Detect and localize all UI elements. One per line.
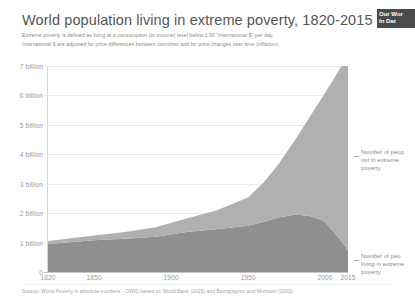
plot-area: 01 billion2 billion3 billion4 billion5 b… bbox=[48, 66, 348, 272]
page-title: World population living in extreme pover… bbox=[22, 12, 362, 28]
subtitle-line-1: Extreme poverty is defined as living at … bbox=[22, 31, 352, 40]
annotation-upper-line-2: not in extreme bbox=[354, 156, 404, 164]
y-axis-tick-label: 6 billion bbox=[20, 92, 43, 99]
source-divider bbox=[22, 284, 393, 285]
subtitle-line-2: International $ are adjusted for price d… bbox=[22, 40, 352, 49]
y-axis-tick-label: 7 billion bbox=[20, 63, 43, 70]
x-axis-tick-label: 2000 bbox=[317, 274, 332, 281]
annotation-leader-line-upper bbox=[354, 156, 359, 157]
y-axis-tick-label: 4 billion bbox=[20, 151, 43, 158]
x-axis-tick-label: 1900 bbox=[164, 274, 179, 281]
y-axis-tick-label: 3 billion bbox=[20, 180, 43, 187]
our-world-in-data-logo[interactable]: Our Wor In Dat bbox=[377, 9, 415, 28]
annotation-upper-line-3: poverty bbox=[354, 164, 404, 172]
x-axis-tick-label: 1850 bbox=[87, 274, 102, 281]
annotation-lower-line-2: living in extreme bbox=[354, 260, 404, 268]
logo-line-1: Our Wor bbox=[379, 11, 415, 18]
annotation-not-in-poverty: Number of peop not in extreme poverty bbox=[354, 148, 404, 173]
y-axis-tick-label: 1 billion bbox=[20, 239, 43, 246]
annotation-in-poverty: Number of peo living in extreme poverty bbox=[354, 252, 404, 277]
annotation-lower-line-1: Number of peo bbox=[361, 252, 404, 260]
chart-page: World population living in extreme pover… bbox=[0, 0, 415, 301]
x-axis-tick-label: 1820 bbox=[40, 274, 55, 281]
x-axis-tick-label: 1950 bbox=[240, 274, 255, 281]
y-axis-tick-label: 2 billion bbox=[20, 210, 43, 217]
y-axis-tick-label: 5 billion bbox=[20, 121, 43, 128]
chart-subtitle: Extreme poverty is defined as living at … bbox=[22, 31, 352, 48]
chart-header: World population living in extreme pover… bbox=[22, 12, 362, 48]
annotation-upper-line-1: Number of peop bbox=[361, 148, 404, 156]
source-note: Source: World Poverty in absolute number… bbox=[22, 288, 293, 294]
stacked-area-series bbox=[48, 66, 348, 272]
gridline bbox=[44, 272, 348, 273]
annotation-leader-line-lower bbox=[354, 260, 359, 261]
logo-line-2: In Dat bbox=[379, 18, 415, 25]
annotation-lower-line-3: poverty bbox=[354, 268, 404, 276]
